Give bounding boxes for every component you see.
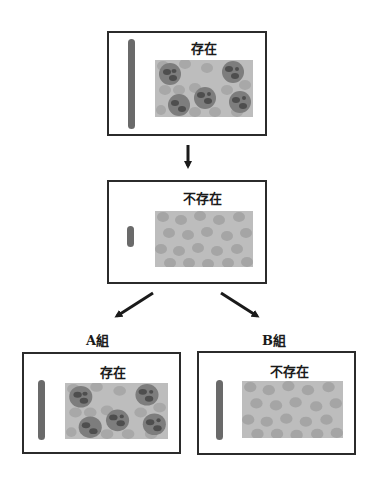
panel-top: 存在	[107, 31, 267, 136]
arrow-to-group-a	[117, 293, 153, 316]
tissue-with-cells	[155, 60, 253, 117]
group-a-label: A組	[86, 330, 109, 349]
indicator-bar	[128, 39, 135, 129]
tissue-with-cells	[65, 383, 168, 439]
panel-label: 不存在	[270, 361, 309, 380]
panel-middle: 不存在	[107, 180, 267, 284]
panel-group-b: 不存在	[197, 351, 356, 455]
panel-group-a: 存在	[22, 352, 181, 454]
panel-label: 存在	[100, 362, 126, 381]
group-b-label: B組	[262, 330, 286, 349]
panel-label: 不存在	[183, 188, 222, 207]
indicator-bar	[216, 380, 223, 440]
panel-label: 存在	[191, 38, 217, 57]
indicator-bar	[38, 380, 45, 440]
cell	[159, 63, 181, 85]
arrow-to-group-b	[221, 293, 257, 316]
tissue-no-cells	[242, 381, 343, 438]
indicator-bar	[127, 226, 134, 247]
tissue-no-cells	[155, 211, 253, 267]
